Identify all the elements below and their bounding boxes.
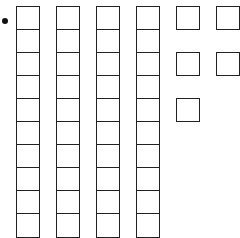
tens-rod	[136, 6, 160, 238]
rod-cell	[97, 145, 119, 168]
rod-cell	[97, 214, 119, 237]
bullet-point	[2, 18, 8, 24]
rod-cell	[57, 76, 79, 99]
rod-cell	[137, 168, 159, 191]
rod-cell	[17, 7, 39, 30]
ones-unit	[176, 98, 200, 122]
rod-cell	[137, 53, 159, 76]
ones-unit	[176, 6, 200, 30]
rod-cell	[97, 53, 119, 76]
rod-cell	[57, 7, 79, 30]
rod-cell	[137, 7, 159, 30]
rod-cell	[17, 76, 39, 99]
ones-unit	[216, 6, 240, 30]
rod-cell	[17, 30, 39, 53]
rod-cell	[57, 191, 79, 214]
rod-cell	[17, 168, 39, 191]
rod-cell	[17, 53, 39, 76]
rod-cell	[137, 145, 159, 168]
rod-cell	[97, 191, 119, 214]
tens-rod	[96, 6, 120, 238]
rod-cell	[97, 99, 119, 122]
tens-rod	[56, 6, 80, 238]
ones-unit	[176, 52, 200, 76]
rod-cell	[17, 145, 39, 168]
rod-cell	[97, 122, 119, 145]
rod-cell	[137, 30, 159, 53]
rod-cell	[57, 99, 79, 122]
rod-cell	[137, 214, 159, 237]
rod-cell	[137, 99, 159, 122]
rod-cell	[97, 76, 119, 99]
rod-cell	[57, 145, 79, 168]
rod-cell	[97, 30, 119, 53]
rod-cell	[57, 168, 79, 191]
rod-cell	[97, 168, 119, 191]
rod-cell	[17, 214, 39, 237]
rod-cell	[137, 76, 159, 99]
tens-rod	[16, 6, 40, 238]
rod-cell	[97, 7, 119, 30]
rod-cell	[57, 53, 79, 76]
rod-cell	[17, 99, 39, 122]
rod-cell	[137, 122, 159, 145]
rod-cell	[57, 122, 79, 145]
rod-cell	[57, 30, 79, 53]
ones-unit	[216, 52, 240, 76]
rod-cell	[57, 214, 79, 237]
rod-cell	[137, 191, 159, 214]
rod-cell	[17, 191, 39, 214]
rod-cell	[17, 122, 39, 145]
